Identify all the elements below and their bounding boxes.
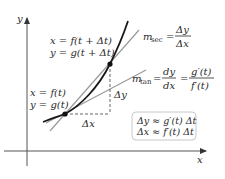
delta-y-label: Δy [113, 89, 127, 100]
upper-point-y-label: y = g(t + Δt) [49, 47, 115, 58]
upper-point-x-label: x = f(t + Δt) [50, 35, 112, 46]
svg-text:=: = [180, 73, 188, 84]
svg-text:dx: dx [163, 80, 175, 91]
svg-text:tan: tan [140, 78, 152, 86]
svg-text:Δy: Δy [175, 24, 189, 35]
diagram-canvas: y x x = f(t + Δt) y = g(t + Δt) x = f(t)… [0, 0, 225, 179]
svg-text:Δx: Δx [175, 38, 189, 49]
y-axis-label: y [16, 13, 23, 24]
svg-text:=: = [153, 73, 161, 84]
approx-dx: Δx ≈ f′(t) Δt [136, 126, 194, 137]
lower-point-y-label: y = g(t) [29, 99, 69, 110]
delta-x-label: Δx [81, 118, 95, 129]
approx-dy: Δy ≈ g′(t) Δt [136, 115, 197, 126]
lower-point-x-label: x = f(t) [30, 87, 66, 98]
svg-text:f′(t): f′(t) [190, 80, 209, 91]
x-axis-label: x [197, 154, 203, 165]
approximation-box: Δy ≈ g′(t) Δt Δx ≈ f′(t) Δt [132, 112, 197, 140]
svg-text:g′(t): g′(t) [191, 66, 212, 77]
point-lower [62, 111, 67, 116]
svg-text:sec: sec [151, 36, 163, 44]
point-upper [107, 61, 112, 66]
secant-slope-formula: m sec = Δy Δx [143, 24, 191, 49]
svg-text:dy: dy [163, 66, 175, 77]
tangent-slope-formula: m tan = dy dx = g′(t) f′(t) [132, 66, 214, 91]
svg-text:=: = [166, 31, 174, 42]
